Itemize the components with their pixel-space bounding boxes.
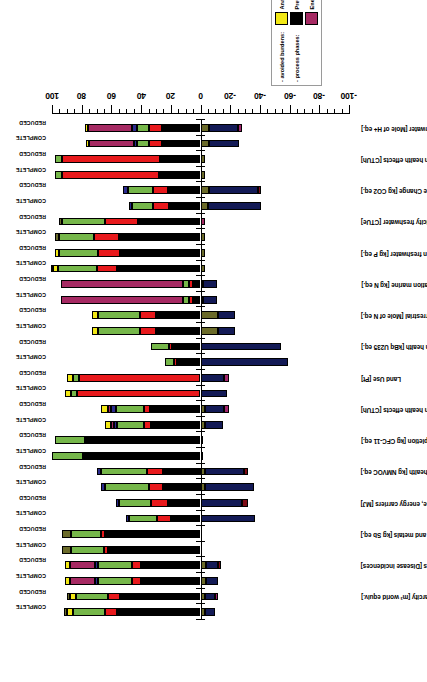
legend-entry-pretreatment[interactable]: Pretreatment bbox=[290, 0, 303, 25]
value-axis-minor-tick bbox=[267, 109, 268, 114]
bar-segment-acetone-production bbox=[218, 561, 221, 569]
bar-segment-fermentation bbox=[183, 296, 189, 304]
bar-complete-cat13[interactable] bbox=[52, 202, 349, 210]
value-axis-minor-tick bbox=[126, 109, 127, 114]
scenario-label-reduced: REDUCED bbox=[19, 432, 46, 438]
bar-segment-fermentation bbox=[71, 390, 77, 398]
bar-segment-enzyme-production bbox=[97, 265, 118, 273]
bar-segment-electricity bbox=[201, 390, 228, 398]
bar-complete-cat0[interactable] bbox=[52, 608, 349, 616]
scenario-label-complete: COMPLETE bbox=[16, 417, 46, 423]
bar-reduced-cat14[interactable] bbox=[52, 155, 349, 163]
bar-complete-cat7[interactable] bbox=[52, 390, 349, 398]
value-axis-major-tick bbox=[171, 105, 172, 114]
bar-complete-cat9[interactable] bbox=[52, 327, 349, 335]
bar-segment-wastewater-treatment bbox=[95, 577, 98, 585]
bar-reduced-cat5[interactable] bbox=[52, 436, 349, 444]
bar-reduced-cat8[interactable] bbox=[52, 343, 349, 351]
baseline-tick bbox=[196, 447, 205, 448]
value-axis-minor-tick bbox=[252, 109, 253, 114]
value-axis-major-tick bbox=[141, 105, 142, 114]
value-axis-minor-tick bbox=[119, 109, 120, 114]
bar-reduced-cat15[interactable] bbox=[52, 124, 349, 132]
value-axis-major-tick bbox=[349, 105, 350, 114]
legend-row-label: - process phases: bbox=[294, 31, 300, 82]
bar-segment-composting bbox=[59, 218, 62, 226]
bar-segment-energy-recovery bbox=[70, 577, 95, 585]
bar-reduced-cat6[interactable] bbox=[52, 405, 349, 413]
bar-segment-enzyme-production bbox=[151, 499, 167, 507]
bar-reduced-cat3[interactable] bbox=[52, 499, 349, 507]
scenario-label-complete: COMPLETE bbox=[16, 573, 46, 579]
chart-legend: - avoided burdens:Anaerobic DigestionCom… bbox=[271, 0, 322, 86]
bar-segment-fermentation bbox=[98, 577, 132, 585]
legend-entry-label: Anaerobic Digestion bbox=[279, 0, 285, 9]
bar-complete-cat5[interactable] bbox=[52, 452, 349, 460]
bar-segment-electricity bbox=[201, 358, 289, 366]
bar-reduced-cat11[interactable] bbox=[52, 249, 349, 257]
baseline-tick bbox=[196, 135, 205, 136]
category-label: Acidification terrestrial and freshwater… bbox=[361, 126, 427, 133]
bar-segment-fermentation bbox=[55, 436, 85, 444]
bar-complete-cat8[interactable] bbox=[52, 358, 349, 366]
value-axis-major-tick bbox=[82, 105, 83, 114]
bar-segment-anaerobic-digestion bbox=[55, 249, 59, 257]
stacked-bar-chart-figure: -100-80-60-40-20020406080100 Water scarc… bbox=[0, 0, 427, 682]
baseline-tick bbox=[196, 541, 205, 542]
bar-segment-composting bbox=[55, 233, 59, 241]
bar-complete-cat15[interactable] bbox=[52, 140, 349, 148]
value-axis-tick-label: -20 bbox=[225, 91, 237, 101]
bar-segment-ethanol-production bbox=[201, 436, 204, 444]
legend-entry-energy-recovery[interactable]: Energy Recovery bbox=[305, 0, 318, 25]
baseline-tick bbox=[196, 588, 205, 589]
bar-reduced-cat1[interactable] bbox=[52, 561, 349, 569]
bar-reduced-cat4[interactable] bbox=[52, 468, 349, 476]
bar-reduced-cat12[interactable] bbox=[52, 218, 349, 226]
value-axis-major-tick bbox=[201, 105, 202, 114]
value-axis-major-tick bbox=[52, 105, 53, 114]
value-axis-minor-tick bbox=[215, 109, 216, 114]
bar-segment-enzyme-production bbox=[132, 577, 141, 585]
legend-entry-anaerobic-digestion[interactable]: Anaerobic Digestion bbox=[275, 0, 288, 25]
bar-segment-electricity bbox=[205, 468, 244, 476]
baseline-tick bbox=[196, 260, 205, 261]
bar-complete-cat1[interactable] bbox=[52, 577, 349, 585]
scenario-label-complete: COMPLETE bbox=[16, 479, 46, 485]
bar-segment-pretreatment bbox=[141, 561, 200, 569]
bar-reduced-cat0[interactable] bbox=[52, 593, 349, 601]
scenario-label-reduced: REDUCED bbox=[19, 182, 46, 188]
category-label: Eutrophication marine [kg N eq.] bbox=[361, 282, 427, 289]
bar-complete-cat2[interactable] bbox=[52, 546, 349, 554]
bar-complete-cat6[interactable] bbox=[52, 421, 349, 429]
bar-segment-composting bbox=[62, 546, 71, 554]
bar-complete-cat11[interactable] bbox=[52, 265, 349, 273]
bar-complete-cat4[interactable] bbox=[52, 483, 349, 491]
bar-segment-pretreatment bbox=[151, 421, 200, 429]
bar-segment-anaerobic-digestion bbox=[53, 265, 57, 273]
bar-reduced-cat13[interactable] bbox=[52, 186, 349, 194]
bar-reduced-cat2[interactable] bbox=[52, 530, 349, 538]
bar-reduced-cat7[interactable] bbox=[52, 374, 349, 382]
scenario-label-complete: COMPLETE bbox=[16, 385, 46, 391]
category-label: Ecotoxicity freshwater [CTUe] bbox=[361, 219, 427, 226]
bar-complete-cat3[interactable] bbox=[52, 515, 349, 523]
value-axis-tick-label: -100 bbox=[341, 91, 357, 101]
bar-complete-cat10[interactable] bbox=[52, 296, 349, 304]
bar-segment-fermentation bbox=[98, 561, 132, 569]
bar-complete-cat12[interactable] bbox=[52, 233, 349, 241]
bar-reduced-cat9[interactable] bbox=[52, 311, 349, 319]
bar-segment-electricity bbox=[209, 140, 239, 148]
bar-segment-ethanol-production bbox=[238, 124, 242, 132]
bar-segment-fermentation bbox=[55, 155, 62, 163]
bar-segment-pretreatment bbox=[163, 483, 200, 491]
bar-complete-cat14[interactable] bbox=[52, 171, 349, 179]
bar-segment-wastewater-treatment bbox=[129, 202, 132, 210]
bar-segment-composting bbox=[201, 124, 210, 132]
value-axis-minor-tick bbox=[149, 109, 150, 114]
bar-reduced-cat10[interactable] bbox=[52, 280, 349, 288]
scenario-label-reduced: REDUCED bbox=[19, 495, 46, 501]
bar-segment-energy-recovery bbox=[111, 421, 114, 429]
scenario-label-complete: COMPLETE bbox=[16, 167, 46, 173]
legend-swatch-icon bbox=[305, 12, 318, 25]
bar-segment-electricity bbox=[218, 327, 234, 335]
